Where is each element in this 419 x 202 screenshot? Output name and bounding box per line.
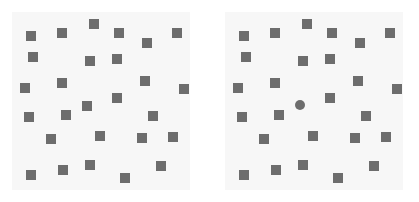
distractor-square-item <box>327 28 337 38</box>
distractor-square-item <box>308 131 318 141</box>
distractor-square-item <box>156 161 166 171</box>
distractor-square-item <box>20 83 30 93</box>
distractor-square-item <box>355 38 365 48</box>
distractor-square-item <box>239 31 249 41</box>
distractor-square-item <box>168 132 178 142</box>
distractor-square-item <box>85 56 95 66</box>
distractor-square-item <box>333 173 343 183</box>
distractor-square-item <box>26 170 36 180</box>
distractor-square-item <box>28 52 38 62</box>
distractor-square-item <box>148 111 158 121</box>
visual-search-figure <box>0 0 419 202</box>
distractor-square-item <box>85 160 95 170</box>
distractor-square-item <box>270 28 280 38</box>
distractor-square-item <box>114 28 124 38</box>
distractor-square-item <box>112 54 122 64</box>
distractor-square-item <box>179 84 189 94</box>
distractor-square-item <box>353 76 363 86</box>
distractor-square-item <box>239 170 249 180</box>
distractor-square-item <box>385 28 395 38</box>
distractor-square-item <box>237 112 247 122</box>
distractor-square-item <box>82 101 92 111</box>
distractor-square-item <box>381 132 391 142</box>
distractor-square-item <box>298 160 308 170</box>
distractor-square-item <box>61 110 71 120</box>
distractor-square-item <box>112 93 122 103</box>
distractor-square-item <box>350 133 360 143</box>
distractor-square-item <box>259 134 269 144</box>
distractor-square-item <box>270 78 280 88</box>
distractor-square-item <box>241 52 251 62</box>
distractor-square-item <box>369 161 379 171</box>
distractor-square-item <box>120 173 130 183</box>
distractor-square-item <box>57 28 67 38</box>
target-circle-item[interactable] <box>295 100 305 110</box>
distractor-square-item <box>137 133 147 143</box>
distractor-square-item <box>24 112 34 122</box>
distractor-square-item <box>233 83 243 93</box>
distractor-square-item <box>325 54 335 64</box>
distractor-square-item <box>46 134 56 144</box>
distractor-square-item <box>325 93 335 103</box>
distractor-square-item <box>89 19 99 29</box>
distractor-square-item <box>140 76 150 86</box>
distractor-square-item <box>302 19 312 29</box>
distractor-square-item <box>274 110 284 120</box>
distractor-square-item <box>26 31 36 41</box>
distractor-square-item <box>57 78 67 88</box>
distractor-square-item <box>298 56 308 66</box>
distractor-square-item <box>172 28 182 38</box>
distractor-square-item <box>271 165 281 175</box>
distractor-square-item <box>95 131 105 141</box>
distractor-square-item <box>142 38 152 48</box>
distractor-square-item <box>392 84 402 94</box>
distractor-square-item <box>361 111 371 121</box>
distractor-square-item <box>58 165 68 175</box>
